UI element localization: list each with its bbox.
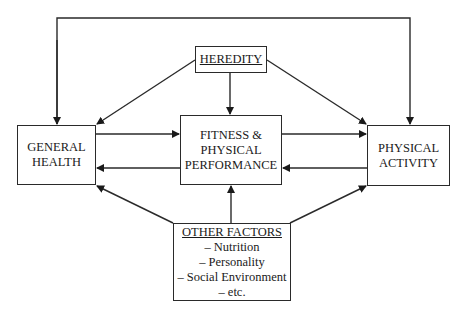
general-health-line1: GENERAL: [27, 140, 85, 155]
other-factors-title: OTHER FACTORS: [182, 225, 282, 240]
node-other-factors: OTHER FACTORS – Nutrition – Personality …: [173, 223, 291, 301]
fitness-line1: FITNESS &: [200, 128, 262, 143]
node-physical-activity: PHYSICAL ACTIVITY: [367, 125, 450, 186]
fitness-line2: PHYSICAL: [200, 143, 261, 158]
general-health-line2: HEALTH: [32, 155, 81, 170]
other-factors-item: – Nutrition: [177, 240, 286, 255]
heredity-label: HEREDITY: [200, 52, 263, 67]
node-fitness-physical-performance: FITNESS & PHYSICAL PERFORMANCE: [180, 115, 282, 185]
physical-activity-line2: ACTIVITY: [379, 156, 438, 171]
node-heredity: HEREDITY: [195, 46, 267, 73]
other-factors-item: – Personality: [177, 255, 286, 270]
other-factors-item: – Social Environment: [177, 270, 286, 285]
other-factors-list: – Nutrition – Personality – Social Envir…: [177, 240, 286, 300]
fitness-line3: PERFORMANCE: [185, 158, 277, 173]
arrow-other-factors-to-general-health: [97, 186, 173, 223]
other-factors-item: – etc.: [177, 285, 286, 300]
arrow-other-factors-to-physical-activity: [290, 186, 366, 223]
node-general-health: GENERAL HEALTH: [17, 125, 96, 185]
physical-activity-line1: PHYSICAL: [378, 141, 439, 156]
